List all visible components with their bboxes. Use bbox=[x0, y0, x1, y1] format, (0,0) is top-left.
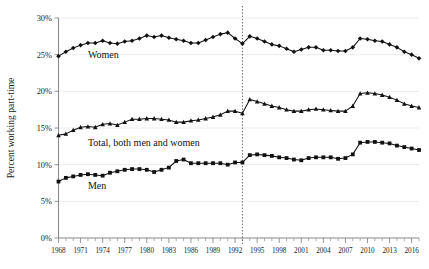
y-axis-title: Percent working part-time bbox=[5, 78, 16, 179]
y-tick-label-25: 25% bbox=[37, 51, 52, 60]
data-point bbox=[387, 42, 392, 47]
x-tick-label-1992: 1992 bbox=[228, 247, 243, 255]
data-point bbox=[181, 38, 186, 43]
y-tick-label-30: 30% bbox=[37, 14, 52, 23]
data-point bbox=[167, 36, 172, 41]
data-point bbox=[270, 154, 274, 158]
data-point bbox=[336, 157, 340, 161]
x-tick-label-1986: 1986 bbox=[184, 247, 199, 255]
data-point bbox=[115, 41, 120, 46]
data-point bbox=[211, 161, 215, 165]
y-tick-label-5: 5% bbox=[41, 197, 52, 206]
data-point bbox=[57, 180, 61, 184]
data-point bbox=[395, 144, 399, 148]
x-tick-label-1995: 1995 bbox=[250, 247, 265, 255]
data-point bbox=[307, 156, 311, 160]
gridlines bbox=[59, 18, 420, 201]
data-point bbox=[78, 43, 83, 48]
x-tick-label-1983: 1983 bbox=[162, 247, 177, 255]
data-point bbox=[189, 41, 194, 46]
data-point bbox=[86, 172, 90, 176]
data-point bbox=[167, 166, 171, 170]
data-point bbox=[395, 45, 400, 50]
data-point bbox=[130, 167, 134, 171]
part-time-employment-line-chart: 0%5%10%15%20%25%30% 19681971197419771980… bbox=[0, 0, 429, 269]
data-point bbox=[373, 140, 377, 144]
data-point bbox=[182, 158, 186, 162]
data-point bbox=[71, 46, 76, 51]
data-point bbox=[285, 156, 289, 160]
data-point bbox=[270, 42, 275, 47]
data-point bbox=[241, 161, 245, 165]
data-point bbox=[248, 97, 253, 101]
data-point bbox=[402, 49, 407, 54]
data-point bbox=[101, 174, 105, 178]
data-point bbox=[138, 167, 142, 171]
data-point bbox=[277, 155, 281, 159]
data-point bbox=[122, 39, 127, 44]
x-tick-label-2004: 2004 bbox=[316, 247, 331, 255]
data-point bbox=[196, 161, 200, 165]
data-point bbox=[108, 41, 113, 46]
data-point bbox=[218, 32, 223, 37]
data-point bbox=[410, 147, 414, 151]
data-point bbox=[145, 168, 149, 172]
x-tick-label-1977: 1977 bbox=[118, 247, 133, 255]
data-point bbox=[402, 145, 406, 149]
data-point bbox=[233, 161, 237, 165]
data-point bbox=[203, 38, 208, 43]
data-point bbox=[108, 171, 112, 175]
data-point bbox=[189, 161, 193, 165]
data-point bbox=[211, 35, 216, 40]
data-point bbox=[314, 155, 318, 159]
x-tick-label-2001: 2001 bbox=[294, 247, 309, 255]
data-point bbox=[329, 155, 333, 159]
data-point bbox=[292, 49, 297, 54]
data-point bbox=[248, 153, 252, 157]
data-point bbox=[336, 49, 341, 54]
data-point bbox=[64, 176, 68, 180]
data-point bbox=[351, 153, 355, 157]
data-point bbox=[204, 161, 208, 165]
data-point bbox=[79, 173, 83, 177]
data-point bbox=[314, 45, 319, 50]
series-total bbox=[56, 90, 421, 137]
series-line bbox=[59, 93, 420, 136]
x-tick-label-2007: 2007 bbox=[338, 247, 353, 255]
data-point bbox=[365, 37, 370, 42]
data-point bbox=[115, 169, 119, 173]
x-tick-label-1980: 1980 bbox=[140, 247, 155, 255]
data-point bbox=[358, 141, 362, 145]
data-point bbox=[174, 159, 178, 163]
series-annotation: Women bbox=[88, 49, 119, 60]
data-point bbox=[417, 56, 422, 61]
data-point bbox=[328, 48, 333, 53]
y-tick-label-10: 10% bbox=[37, 161, 52, 170]
x-tick-label-2013: 2013 bbox=[382, 247, 397, 255]
y-tick-label-20: 20% bbox=[37, 87, 52, 96]
data-point bbox=[344, 156, 348, 160]
series-annotation: Men bbox=[88, 180, 106, 191]
x-tick-label-1968: 1968 bbox=[51, 247, 66, 255]
data-point bbox=[277, 44, 282, 49]
data-point bbox=[152, 35, 157, 40]
data-point bbox=[255, 153, 259, 157]
data-point bbox=[321, 48, 326, 53]
x-tick-label-1989: 1989 bbox=[206, 247, 221, 255]
data-point bbox=[64, 49, 69, 54]
y-tick-label-15: 15% bbox=[37, 124, 52, 133]
x-tick-label-2016: 2016 bbox=[404, 247, 419, 255]
data-point bbox=[284, 47, 289, 52]
data-point bbox=[409, 52, 414, 57]
data-point bbox=[218, 161, 222, 165]
x-tick-label-1971: 1971 bbox=[73, 247, 88, 255]
data-point bbox=[130, 38, 135, 43]
data-point bbox=[137, 36, 142, 41]
series-annotation: Total, both men and women bbox=[88, 137, 200, 148]
y-axis: 0%5%10%15%20%25%30% bbox=[37, 14, 59, 243]
data-point bbox=[373, 38, 378, 43]
data-point bbox=[388, 142, 392, 146]
data-point bbox=[160, 168, 164, 172]
data-point bbox=[417, 148, 421, 152]
data-point bbox=[71, 175, 75, 179]
